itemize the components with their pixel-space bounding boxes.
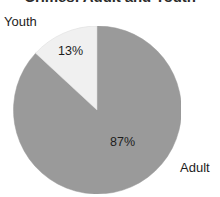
- pie-chart-canvas: [13, 26, 181, 194]
- pie-chart-figure: Crimes: Adult and Youth 13% 87% Youth Ad…: [0, 0, 220, 197]
- pie-value-label-youth: 13%: [58, 44, 83, 58]
- pie-category-label-youth: Youth: [4, 14, 37, 29]
- pie-value-label-adult: 87%: [110, 135, 135, 149]
- pie-svg: [13, 26, 181, 194]
- chart-title: Crimes: Adult and Youth: [0, 0, 220, 5]
- pie-category-label-adult: Adult: [180, 160, 210, 175]
